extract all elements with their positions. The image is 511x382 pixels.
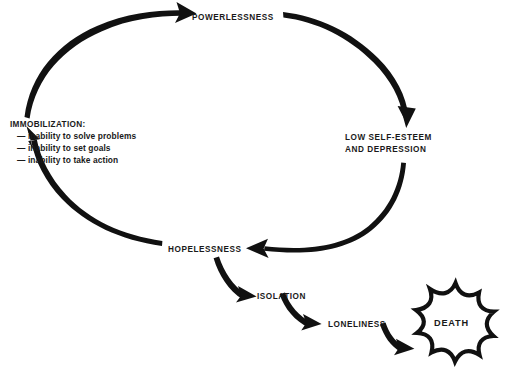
node-label-powerlessness: POWERLESSNESS	[192, 13, 274, 22]
node-label-loneliness: LONELINESS	[328, 320, 386, 329]
node-label-isolation: ISOLATION	[257, 292, 306, 301]
cycle-diagram: POWERLESSNESS LOW SELF-ESTEEM AND DEPRES…	[0, 0, 511, 382]
node-label-low-self-esteem-line2: AND DEPRESSION	[345, 145, 426, 154]
node-label-low-self-esteem-line1: LOW SELF-ESTEEM	[345, 133, 432, 142]
immobilization-title: IMMOBILIZATION:	[10, 120, 86, 129]
diagram-page: POWERLESSNESS LOW SELF-ESTEEM AND DEPRES…	[0, 0, 511, 382]
arrow-powerlessness-to-low-self-esteem	[283, 12, 416, 128]
immobilization-item-0: — inability to solve problems	[17, 131, 136, 141]
node-label-death: DEATH	[434, 318, 469, 328]
arrow-hopelessness-to-isolation	[214, 257, 257, 303]
node-label-hopelessness: HOPELESSNESS	[168, 245, 241, 254]
immobilization-item-2: — inability to take action	[17, 155, 118, 165]
immobilization-block: IMMOBILIZATION: — inability to solve pro…	[10, 120, 136, 165]
arrow-immobilization-to-powerlessness	[25, 2, 197, 119]
immobilization-item-1: — inability to set goals	[17, 143, 111, 153]
arrow-low-self-esteem-to-hopelessness	[246, 163, 406, 258]
